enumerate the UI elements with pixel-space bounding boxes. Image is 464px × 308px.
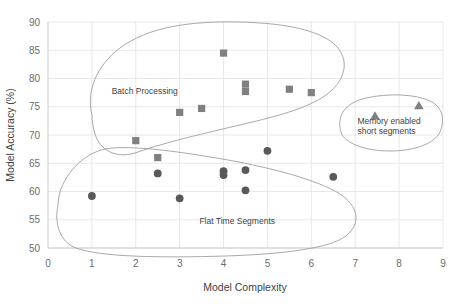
y-tick-label: 70 bbox=[29, 130, 41, 141]
data-point-square bbox=[220, 49, 227, 56]
chart-svg: Batch ProcessingFlat Time SegmentsMemory… bbox=[0, 0, 464, 308]
y-tick-label: 75 bbox=[29, 101, 41, 112]
data-point-triangle bbox=[414, 101, 424, 109]
y-tick-label: 80 bbox=[29, 73, 41, 84]
x-tick-labels: 0123456789 bbox=[45, 258, 446, 269]
data-point-circle bbox=[176, 194, 184, 202]
x-tick-label: 2 bbox=[133, 258, 139, 269]
y-tick-label: 60 bbox=[29, 186, 41, 197]
x-tick-label: 6 bbox=[309, 258, 315, 269]
data-point-circle bbox=[264, 147, 272, 155]
y-tick-label: 85 bbox=[29, 45, 41, 56]
x-tick-label: 0 bbox=[45, 258, 51, 269]
data-point-square bbox=[176, 109, 183, 116]
cluster-label: Flat Time Segments bbox=[199, 216, 275, 226]
data-point-square bbox=[242, 81, 249, 88]
data-point-circle bbox=[154, 170, 162, 178]
y-tick-label: 65 bbox=[29, 158, 41, 169]
x-tick-label: 9 bbox=[440, 258, 446, 269]
cluster-label: Batch Processing bbox=[112, 86, 178, 96]
x-tick-label: 8 bbox=[396, 258, 402, 269]
x-tick-label: 1 bbox=[89, 258, 95, 269]
cluster-label: short segments bbox=[357, 126, 415, 136]
x-tick-label: 3 bbox=[177, 258, 183, 269]
scatter-chart: Batch ProcessingFlat Time SegmentsMemory… bbox=[0, 0, 464, 308]
data-point-circle bbox=[88, 192, 96, 200]
x-tick-label: 4 bbox=[221, 258, 227, 269]
x-tick-label: 5 bbox=[265, 258, 271, 269]
y-tick-label: 50 bbox=[29, 243, 41, 254]
x-axis-title: Model Complexity bbox=[203, 281, 287, 293]
cluster-label: Memory enabled bbox=[357, 116, 421, 126]
data-point-square bbox=[132, 137, 139, 144]
data-point-circle bbox=[242, 166, 250, 174]
data-point-circle bbox=[242, 186, 250, 194]
data-point-circle bbox=[220, 171, 228, 179]
y-tick-label: 90 bbox=[29, 17, 41, 28]
y-tick-labels: 505560657075808590 bbox=[29, 17, 41, 254]
x-tick-label: 7 bbox=[352, 258, 358, 269]
y-tick-label: 55 bbox=[29, 214, 41, 225]
data-point-square bbox=[286, 86, 293, 93]
y-axis-title: Model Accuracy (%) bbox=[4, 88, 16, 181]
data-point-square bbox=[242, 88, 249, 95]
data-point-square bbox=[308, 89, 315, 96]
data-point-circle bbox=[329, 173, 337, 181]
data-point-square bbox=[154, 154, 161, 161]
data-point-square bbox=[198, 105, 205, 112]
